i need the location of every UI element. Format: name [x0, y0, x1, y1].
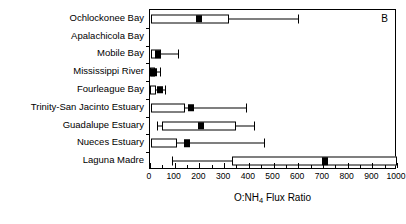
x-axis-minor-tick [335, 165, 336, 168]
box-iqr [151, 14, 229, 23]
x-tick-label: 600 [290, 171, 304, 181]
median-marker [157, 86, 163, 94]
category-label: Mississippi River [73, 66, 144, 76]
whisker-cap-low [172, 157, 173, 166]
x-tick-label: 200 [191, 171, 205, 181]
box-plot-row [150, 81, 395, 99]
x-axis-minor-tick [360, 165, 361, 168]
x-axis-minor-tick [311, 165, 312, 168]
category-label-column: Ochlockonee BayApalachicola BayMobile Ba… [0, 0, 149, 168]
x-axis-major-tick [150, 163, 151, 168]
category-label: Fourleague Bay [77, 84, 144, 94]
x-axis-major-tick [323, 163, 324, 168]
box-plot-row [150, 117, 395, 135]
whisker-cap-high [298, 14, 299, 23]
x-axis-major-tick [274, 163, 275, 168]
box-plot-row [150, 28, 395, 46]
median-marker [151, 68, 157, 76]
category-label: Mobile Bay [97, 48, 144, 58]
x-axis-minor-tick [286, 165, 287, 168]
whisker-cap-high [264, 139, 265, 148]
x-axis-major-tick [199, 163, 200, 168]
whisker-cap-high [246, 103, 247, 112]
whisker-cap-high [165, 85, 166, 94]
x-axis-minor-tick [162, 165, 163, 168]
x-axis-minor-tick [187, 165, 188, 168]
x-axis-major-tick [397, 163, 398, 168]
median-marker [198, 122, 204, 130]
box-iqr [151, 103, 184, 112]
x-axis-minor-tick [236, 165, 237, 168]
category-label: Ochlockonee Bay [70, 13, 144, 23]
whisker-cap-high [254, 121, 255, 130]
x-tick-label: 400 [241, 171, 255, 181]
whisker-cap-high [178, 50, 179, 59]
box-plot-row [150, 10, 395, 28]
x-tick-label: 1000 [386, 171, 405, 181]
x-tick-label: 900 [364, 171, 378, 181]
figure-panel-b: Ochlockonee BayApalachicola BayMobile Ba… [0, 0, 406, 224]
x-axis-major-tick [175, 163, 176, 168]
box-iqr [151, 139, 177, 148]
category-label: Nueces Estuary [77, 137, 144, 147]
median-marker [196, 15, 202, 23]
category-label: Apalachicola Bay [71, 31, 144, 41]
median-marker [155, 51, 161, 59]
box-plot-row [150, 134, 395, 152]
x-tick-label: 300 [216, 171, 230, 181]
median-marker [188, 104, 194, 112]
x-axis-major-tick [249, 163, 250, 168]
x-tick-label: 0 [147, 171, 152, 181]
x-tick-label: 800 [339, 171, 353, 181]
x-tick-label: 700 [315, 171, 329, 181]
whisker-cap-high [160, 68, 161, 77]
x-axis-minor-tick [261, 165, 262, 168]
x-axis-tick-labels: 01002003004005006007008009001000 [149, 171, 396, 183]
x-tick-label: 500 [265, 171, 279, 181]
x-axis-major-tick [348, 163, 349, 168]
x-axis-title: O:NH4 Flux Ratio [149, 192, 396, 205]
box-iqr [150, 85, 156, 94]
category-label: Laguna Madre [83, 155, 144, 165]
x-axis-minor-tick [212, 165, 213, 168]
box-plot-row [150, 46, 395, 64]
category-label: Guadalupe Estuary [63, 120, 144, 130]
median-marker [184, 140, 190, 148]
x-axis-major-tick [224, 163, 225, 168]
x-axis-title-suffix: Flux Ratio [263, 192, 311, 203]
x-axis-title-prefix: O:NH [234, 192, 259, 203]
x-tick-label: 100 [167, 171, 181, 181]
plot-area: B [149, 9, 396, 169]
x-axis-major-tick [372, 163, 373, 168]
box-plot-row [150, 63, 395, 81]
category-label: Trinity-San Jacinto Estuary [31, 102, 144, 112]
x-axis-minor-tick [385, 165, 386, 168]
x-axis-major-tick [298, 163, 299, 168]
box-plot-row [150, 99, 395, 117]
whisker-cap-low [157, 121, 158, 130]
